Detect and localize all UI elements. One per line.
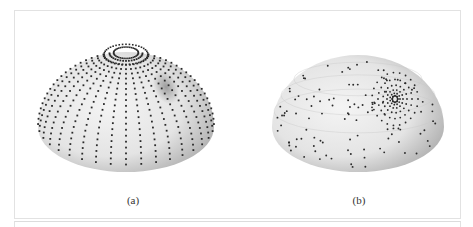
hemisphere-surface xyxy=(272,55,444,172)
panel-b xyxy=(265,27,455,197)
next-figure-frame xyxy=(14,221,461,227)
panel-a xyxy=(31,27,221,197)
figure-frame: (a) (b) xyxy=(14,10,461,219)
caption-b: (b) xyxy=(329,194,389,206)
caption-a: (a) xyxy=(103,194,163,206)
hemisphere-plot-a xyxy=(31,27,221,197)
hemisphere-plot-b xyxy=(265,27,455,197)
